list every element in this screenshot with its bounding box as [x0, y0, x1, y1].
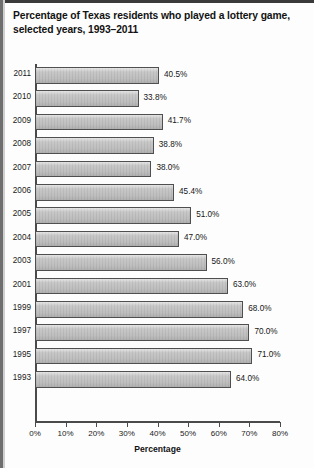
bar-row: 201140.5%	[0, 65, 314, 88]
bar	[35, 67, 159, 84]
bar-value-label: 33.8%	[144, 93, 167, 102]
bar-row: 200356.0%	[0, 252, 314, 275]
x-axis-label: Percentage	[35, 444, 280, 454]
y-axis-category-label: 2008	[0, 139, 31, 148]
chart-title: Percentage of Texas residents who played…	[13, 9, 303, 37]
bar	[35, 161, 151, 178]
bar-value-label: 47.0%	[184, 233, 207, 242]
x-tick	[219, 422, 220, 427]
bar	[35, 90, 139, 107]
bar-value-label: 68.0%	[248, 304, 271, 313]
x-tick	[66, 422, 67, 427]
bar	[35, 137, 154, 154]
y-axis-category-label: 1995	[0, 350, 31, 359]
y-axis-category-label: 2004	[0, 233, 31, 242]
page-top-rule	[0, 0, 314, 3]
x-tick-label: 50%	[180, 429, 196, 438]
bar-value-label: 45.4%	[179, 187, 202, 196]
bar-value-label: 41.7%	[168, 116, 191, 125]
x-tick	[127, 422, 128, 427]
bar-row: 200738.0%	[0, 159, 314, 182]
bar-row: 200838.8%	[0, 135, 314, 158]
x-tick	[158, 422, 159, 427]
bar-value-label: 56.0%	[212, 257, 235, 266]
x-tick-label: 20%	[88, 429, 104, 438]
x-tick-label: 70%	[241, 429, 257, 438]
bar-row: 201033.8%	[0, 88, 314, 111]
y-axis-category-label: 2009	[0, 116, 31, 125]
bar-value-label: 38.0%	[156, 163, 179, 172]
bar	[35, 324, 249, 341]
y-axis-category-label: 2007	[0, 163, 31, 172]
x-tick-label: 10%	[58, 429, 74, 438]
bar-row: 199571.0%	[0, 346, 314, 369]
y-axis-category-label: 2011	[0, 69, 31, 78]
bar-row: 200163.0%	[0, 276, 314, 299]
bar	[35, 207, 191, 224]
x-tick-label: 60%	[211, 429, 227, 438]
bar	[35, 114, 163, 131]
x-tick	[249, 422, 250, 427]
x-tick	[96, 422, 97, 427]
bar	[35, 371, 231, 388]
bar-row: 200551.0%	[0, 205, 314, 228]
x-tick	[35, 422, 36, 427]
bar-row: 199968.0%	[0, 299, 314, 322]
bar	[35, 301, 243, 318]
bar-value-label: 71.0%	[257, 350, 280, 359]
bar	[35, 254, 207, 271]
bar-row: 200447.0%	[0, 229, 314, 252]
bar	[35, 231, 179, 248]
chart-page: Percentage of Texas residents who played…	[0, 0, 314, 468]
bar-value-label: 70.0%	[254, 327, 277, 336]
bar-row: 199364.0%	[0, 369, 314, 392]
x-tick-label: 0%	[29, 429, 41, 438]
bar-row: 199770.0%	[0, 322, 314, 345]
y-axis-category-label: 1993	[0, 373, 31, 382]
x-tick	[280, 422, 281, 427]
bar-row: 200941.7%	[0, 112, 314, 135]
bar	[35, 184, 174, 201]
x-tick	[188, 422, 189, 427]
y-axis-category-label: 2001	[0, 280, 31, 289]
bar	[35, 278, 228, 295]
bar-value-label: 38.8%	[159, 140, 182, 149]
y-axis-category-label: 2010	[0, 92, 31, 101]
x-tick-label: 40%	[149, 429, 165, 438]
y-axis-category-label: 2003	[0, 256, 31, 265]
x-tick-label: 80%	[272, 429, 288, 438]
x-tick-label: 30%	[119, 429, 135, 438]
y-axis-category-label: 1997	[0, 326, 31, 335]
plot-area: 201140.5%201033.8%200941.7%200838.8%2007…	[0, 60, 314, 430]
bar-value-label: 64.0%	[236, 374, 259, 383]
y-axis-category-label: 2005	[0, 209, 31, 218]
bar-value-label: 63.0%	[233, 280, 256, 289]
bar	[35, 348, 252, 365]
bar-value-label: 51.0%	[196, 210, 219, 219]
y-axis-category-label: 1999	[0, 303, 31, 312]
bar-row: 200645.4%	[0, 182, 314, 205]
y-axis-category-label: 2006	[0, 186, 31, 195]
bar-value-label: 40.5%	[164, 70, 187, 79]
